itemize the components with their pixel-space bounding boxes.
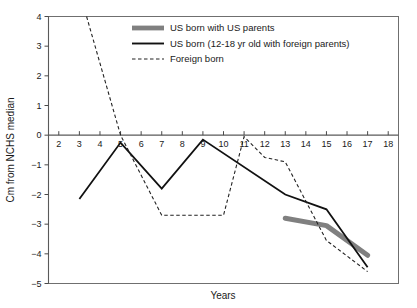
x-tick-label: 18 xyxy=(383,139,393,149)
x-tick-label: 8 xyxy=(180,139,185,149)
line-chart: 43210−1−2−3−4−5 234567891011121314151617… xyxy=(0,0,417,308)
chart-container: 43210−1−2−3−4−5 234567891011121314151617… xyxy=(0,0,417,308)
x-tick-label: 12 xyxy=(260,139,270,149)
y-tick-label: 2 xyxy=(36,71,41,81)
y-tick-label: 0 xyxy=(36,130,41,140)
x-tick-label: 15 xyxy=(321,139,331,149)
y-tick-label: 3 xyxy=(36,41,41,51)
legend-label: Foreign born xyxy=(170,53,224,64)
y-axis-title: Cm from NCHS median xyxy=(5,97,16,202)
x-tick-label: 4 xyxy=(97,139,102,149)
x-tick-label: 13 xyxy=(280,139,290,149)
y-tick-label: −1 xyxy=(31,160,41,170)
x-tick-label: 10 xyxy=(218,139,228,149)
y-tick-label: −5 xyxy=(31,279,41,289)
x-tick-label: 3 xyxy=(77,139,82,149)
y-tick-label: 4 xyxy=(36,12,41,22)
x-tick-label: 17 xyxy=(363,139,373,149)
x-tick-label: 2 xyxy=(56,139,61,149)
x-axis-title: Years xyxy=(210,290,235,301)
y-tick-label: −4 xyxy=(31,249,41,259)
x-tick-label: 7 xyxy=(159,139,164,149)
x-tick-label: 6 xyxy=(139,139,144,149)
legend-label: US born with US parents xyxy=(170,22,275,33)
legend-label: US born (12-18 yr old with foreign paren… xyxy=(170,38,350,49)
y-tick-label: −2 xyxy=(31,190,41,200)
y-tick-label: −3 xyxy=(31,219,41,229)
x-tick-label: 14 xyxy=(301,139,311,149)
x-tick-label: 16 xyxy=(342,139,352,149)
y-tick-label: 1 xyxy=(36,101,41,111)
